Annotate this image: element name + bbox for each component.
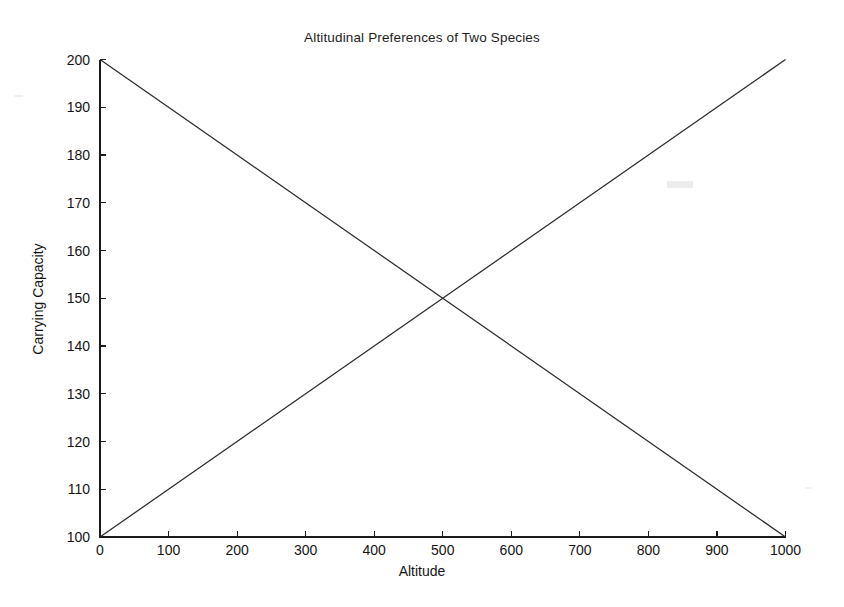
x-axis-title: Altitude: [0, 563, 844, 579]
y-tick-label: 100: [40, 529, 90, 545]
x-tick-label: 900: [705, 542, 728, 558]
y-tick-label: 120: [40, 434, 90, 450]
x-tick-label: 1000: [770, 542, 801, 558]
plot-area: [0, 0, 844, 607]
x-tick-label: 100: [157, 542, 180, 558]
y-tick-label: 170: [40, 195, 90, 211]
x-tick-label: 600: [500, 542, 523, 558]
y-axis-title: Carrying Capacity: [30, 199, 46, 399]
x-tick-label: 0: [96, 542, 104, 558]
y-tick-label: 130: [40, 386, 90, 402]
x-tick-label: 300: [294, 542, 317, 558]
data-series: [100, 60, 786, 538]
y-tick-label: 180: [40, 147, 90, 163]
x-tick-label: 500: [431, 542, 454, 558]
y-tick-label: 200: [40, 52, 90, 68]
y-tick-label: 150: [40, 290, 90, 306]
x-tick-label: 800: [637, 542, 660, 558]
y-tick-label: 140: [40, 338, 90, 354]
figure-canvas: Altitudinal Preferences of Two Species 0…: [0, 0, 844, 607]
x-tick-label: 700: [568, 542, 591, 558]
y-tick-label: 190: [40, 99, 90, 115]
x-tick-label: 400: [363, 542, 386, 558]
x-tick-label: 200: [225, 542, 248, 558]
y-tick-label: 160: [40, 243, 90, 259]
y-tick-label: 110: [40, 481, 90, 497]
